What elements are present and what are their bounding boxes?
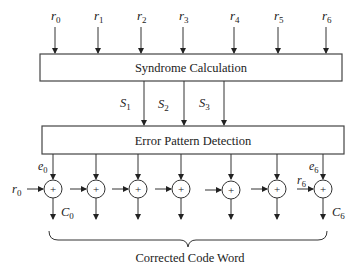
r3-label: r3 — [179, 8, 189, 25]
svg-text:+: + — [274, 183, 280, 195]
svg-text:+: + — [50, 183, 56, 195]
syndrome-calculation-block: Syndrome Calculation — [40, 54, 342, 81]
xor-node-2: + — [129, 180, 147, 198]
xor-node-5: + — [268, 180, 286, 198]
c0-label: C0 — [61, 205, 74, 221]
error-pattern-detection-block: Error Pattern Detection — [42, 126, 344, 154]
input-arrows — [55, 27, 326, 53]
r5-label: r5 — [274, 8, 284, 25]
error-pattern-detection-label: Error Pattern Detection — [135, 134, 252, 148]
e0-label: e0 — [38, 159, 48, 175]
xor-node-6: + — [314, 180, 332, 198]
curly-brace — [49, 231, 327, 247]
svg-text:+: + — [135, 183, 141, 195]
xor-node-0: + — [44, 180, 62, 198]
r1-label: r1 — [94, 8, 104, 25]
s2-label: S2 — [158, 97, 169, 113]
r0-side-label: r0 — [12, 182, 22, 198]
xor-node-1: + — [87, 180, 105, 198]
xor-nodes: + + + + + + + — [44, 180, 332, 199]
r2-label: r2 — [137, 8, 147, 25]
svg-text:+: + — [93, 183, 99, 195]
r6-label: r6 — [322, 8, 332, 25]
syndrome-labels: S1 S2 S3 — [120, 96, 210, 113]
output-arrows — [53, 198, 323, 219]
received-bit-labels: r0 r1 r2 r3 r4 r5 r6 — [51, 8, 332, 25]
e6-label: e6 — [309, 159, 319, 175]
r4-label: r4 — [230, 8, 240, 25]
error-lines — [53, 154, 323, 179]
xor-node-3: + — [172, 180, 190, 198]
s1-label: S1 — [120, 96, 131, 112]
svg-text:+: + — [320, 183, 326, 195]
svg-text:+: + — [228, 184, 234, 196]
c6-label: C6 — [332, 205, 345, 221]
r0-label: r0 — [51, 8, 61, 25]
syndrome-calculation-label: Syndrome Calculation — [135, 61, 248, 75]
s3-label: S3 — [199, 96, 210, 112]
syndrome-lines — [144, 81, 224, 125]
corrected-code-word-label: Corrected Code Word — [135, 251, 245, 265]
xor-node-4: + — [222, 181, 240, 199]
r6-side-label: r6 — [297, 173, 306, 189]
svg-text:+: + — [178, 183, 184, 195]
decoder-diagram: r0 r1 r2 r3 r4 r5 r6 Syndrome Calculatio… — [0, 0, 356, 272]
